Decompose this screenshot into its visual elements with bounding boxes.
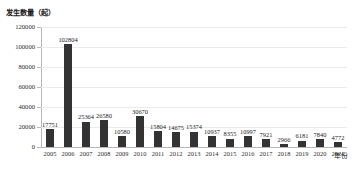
y-tick-label: 0 [0, 143, 35, 150]
x-axis-title: 年份 [334, 150, 348, 160]
y-tick-label: 20000 [0, 123, 35, 130]
x-tick-label: 2010 [134, 150, 147, 157]
x-tick-label: 2019 [296, 150, 309, 157]
bar-value-label: 8355 [224, 130, 237, 137]
bar-value-label: 25364 [78, 113, 94, 120]
bar-value-label: 2966 [278, 136, 291, 143]
bar [100, 120, 108, 147]
bar-value-label: 7840 [314, 131, 327, 138]
bar [208, 136, 216, 147]
y-tick-label: 40000 [0, 103, 35, 110]
bar-value-label: 102804 [58, 36, 77, 43]
bar-value-label: 4772 [332, 134, 345, 141]
x-tick-label: 2013 [188, 150, 201, 157]
bar [244, 136, 252, 147]
bar-value-label: 26580 [96, 112, 112, 119]
bar-value-label: 10580 [114, 128, 130, 135]
x-tick-label: 2016 [242, 150, 255, 157]
bar [190, 132, 198, 147]
bar [316, 139, 324, 147]
x-tick-label: 2018 [278, 150, 291, 157]
y-tick-mark [37, 147, 41, 148]
bar [280, 144, 288, 147]
x-tick-label: 2008 [98, 150, 111, 157]
bar-value-label: 10997 [240, 128, 256, 135]
bar-value-label: 30670 [132, 108, 148, 115]
bar [298, 141, 306, 147]
x-tick-label: 2014 [206, 150, 219, 157]
x-tick-label: 2020 [314, 150, 327, 157]
y-tick-label: 100000 [0, 43, 35, 50]
x-tick-label: 2009 [116, 150, 129, 157]
bar-value-label: 15804 [150, 123, 166, 130]
bar-value-label: 10937 [204, 128, 220, 135]
x-axis-line [41, 147, 347, 148]
x-tick-label: 2011 [152, 150, 165, 157]
bar [136, 116, 144, 147]
bar [82, 122, 90, 147]
bar [154, 131, 162, 147]
y-tick-label: 80000 [0, 63, 35, 70]
bar-value-label: 6181 [296, 132, 309, 139]
x-tick-label: 2005 [44, 150, 57, 157]
y-tick-label: 120000 [0, 23, 35, 30]
x-tick-label: 2017 [260, 150, 273, 157]
bar [172, 132, 180, 147]
bar [46, 129, 54, 147]
bar-value-label: 14675 [168, 124, 184, 131]
bar [226, 139, 234, 147]
bar [64, 44, 72, 147]
bar [334, 142, 342, 147]
x-tick-label: 2006 [62, 150, 75, 157]
bar-value-label: 17751 [42, 121, 58, 128]
bar-value-label: 7921 [260, 131, 273, 138]
x-tick-label: 2007 [80, 150, 93, 157]
y-axis-title: 发生数量（起） [6, 7, 55, 17]
bar [118, 136, 126, 147]
x-tick-label: 2015 [224, 150, 237, 157]
x-tick-label: 2012 [170, 150, 183, 157]
bar-chart: 发生数量（起） 02000040000600008000010000012000… [0, 0, 361, 179]
bar-value-label: 15374 [186, 123, 202, 130]
y-tick-label: 60000 [0, 83, 35, 90]
bar [262, 139, 270, 147]
